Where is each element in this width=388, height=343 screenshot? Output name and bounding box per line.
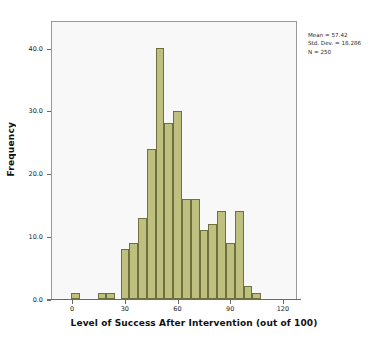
y-tick-mark xyxy=(47,111,51,112)
y-tick-label: 20.0 xyxy=(29,171,43,178)
x-tick-label: 30 xyxy=(121,306,129,313)
x-tick-label: 120 xyxy=(277,306,289,313)
histogram-bar xyxy=(191,199,200,299)
histogram-bar xyxy=(235,211,244,299)
x-axis: Level of Success After Intervention (out… xyxy=(0,300,388,343)
y-axis: Frequency 0.010.020.030.040.0 xyxy=(0,0,51,343)
y-tick-label: 10.0 xyxy=(29,234,43,241)
x-axis-title: Level of Success After Intervention (out… xyxy=(0,318,388,328)
plot-area xyxy=(51,21,297,300)
histogram-bar xyxy=(173,111,182,299)
histogram-bar xyxy=(217,211,226,299)
y-tick-mark xyxy=(47,174,51,175)
histogram-bar xyxy=(200,230,209,299)
histogram-bar xyxy=(244,286,253,299)
stat-n: N = 250 xyxy=(308,48,361,56)
y-axis-title: Frequency xyxy=(6,122,22,176)
y-tick-mark xyxy=(47,49,51,50)
x-tick-mark xyxy=(178,300,179,304)
x-tick-label: 60 xyxy=(173,306,181,313)
y-tick-mark xyxy=(47,237,51,238)
y-tick-label: 40.0 xyxy=(29,46,43,53)
histogram-bars xyxy=(52,22,296,299)
statistics-annotation: Mean = 57.42 Std. Dev. = 18.286 N = 250 xyxy=(308,31,361,56)
x-tick-label: 90 xyxy=(226,306,234,313)
histogram-bar xyxy=(164,123,173,299)
x-tick-mark xyxy=(72,300,73,304)
x-axis-baseline xyxy=(47,299,301,300)
histogram-bar xyxy=(147,149,156,299)
y-tick-label: 30.0 xyxy=(29,108,43,115)
histogram-figure: Frequency 0.010.020.030.040.0 Level of S… xyxy=(0,0,388,343)
x-tick-label: 0 xyxy=(70,306,74,313)
histogram-bar xyxy=(208,224,217,299)
histogram-bar xyxy=(156,48,165,299)
histogram-bar xyxy=(226,243,235,299)
x-tick-mark xyxy=(283,300,284,304)
histogram-bar xyxy=(138,218,147,300)
stat-std-dev: Std. Dev. = 18.286 xyxy=(308,39,361,47)
histogram-bar xyxy=(121,249,130,299)
x-tick-mark xyxy=(230,300,231,304)
stat-mean: Mean = 57.42 xyxy=(308,31,361,39)
histogram-bar xyxy=(129,243,138,299)
histogram-bar xyxy=(182,199,191,299)
x-tick-mark xyxy=(125,300,126,304)
